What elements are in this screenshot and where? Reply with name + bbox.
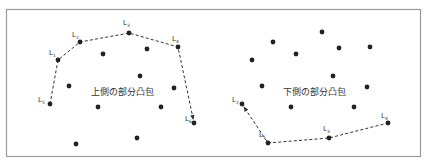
- point: [159, 105, 164, 110]
- point: [320, 30, 325, 35]
- lower-hull-caption: 下側の部分凸包: [283, 86, 346, 97]
- point: [101, 52, 106, 57]
- convex-hull-diagram: L5L1L2L3L4L6 L2L1L3L4 上側の部分凸包 下側の部分凸包: [0, 0, 428, 163]
- point: [365, 85, 370, 90]
- diagram-frame: [7, 10, 421, 157]
- point: [138, 74, 143, 79]
- point: [172, 86, 177, 91]
- point: [96, 105, 101, 110]
- point: [294, 52, 299, 57]
- point: [67, 84, 72, 89]
- hull-point: [192, 121, 197, 126]
- point: [352, 105, 357, 110]
- point: [74, 142, 79, 147]
- point: [337, 46, 342, 51]
- point: [145, 47, 150, 52]
- point: [331, 74, 336, 79]
- point: [271, 40, 276, 45]
- point: [250, 58, 255, 63]
- hull-point: [127, 31, 132, 36]
- hull-point: [327, 136, 332, 141]
- point: [289, 105, 294, 110]
- hull-point: [266, 141, 271, 146]
- hull-point: [176, 45, 181, 50]
- point: [368, 45, 373, 50]
- hull-point: [56, 58, 61, 63]
- upper-hull-caption: 上側の部分凸包: [91, 86, 154, 97]
- hull-point: [240, 102, 245, 107]
- point: [260, 84, 265, 89]
- hull-point: [48, 102, 53, 107]
- hull-point: [78, 40, 83, 45]
- point: [135, 136, 140, 141]
- hull-point: [386, 121, 391, 126]
